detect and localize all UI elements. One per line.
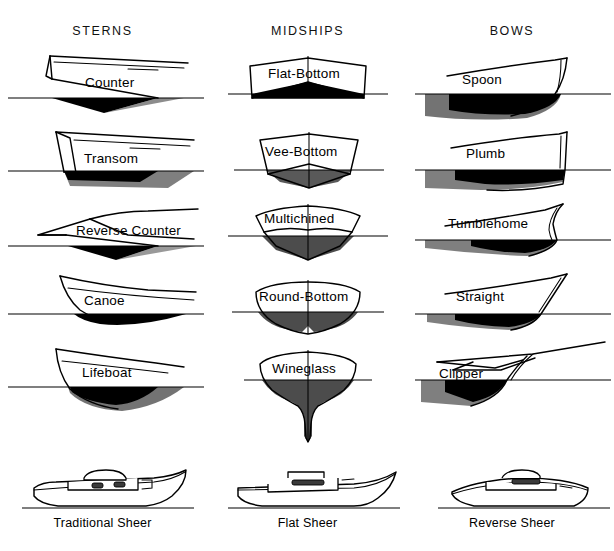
sheer-reverse-drawing bbox=[438, 466, 610, 512]
label-bow-clipper: Clipper bbox=[439, 367, 483, 381]
stern-lifeboat-drawing bbox=[8, 345, 204, 423]
bow-tumblehome-drawing bbox=[415, 200, 611, 262]
midship-vee-bottom-drawing bbox=[234, 130, 384, 192]
bow-clipper-drawing bbox=[415, 340, 611, 422]
bow-spoon-drawing bbox=[415, 54, 611, 124]
label-stern-counter: Counter bbox=[85, 76, 134, 90]
figure-midship-round-bottom bbox=[232, 278, 384, 336]
midship-flat-bottom-drawing bbox=[228, 54, 388, 108]
figure-sheer-flat bbox=[228, 466, 400, 512]
label-bow-tumblehome: Tumblehome bbox=[448, 217, 528, 231]
label-midship-round-bottom: Round-Bottom bbox=[259, 290, 348, 304]
figure-midship-vee-bottom bbox=[234, 130, 384, 192]
sheer-flat-drawing bbox=[228, 466, 400, 512]
label-stern-canoe: Canoe bbox=[84, 294, 125, 308]
label-bow-spoon: Spoon bbox=[462, 73, 502, 87]
label-stern-reverse-counter: Reverse Counter bbox=[76, 224, 181, 238]
figure-bow-tumblehome bbox=[415, 200, 611, 262]
figure-sheer-traditional bbox=[22, 466, 194, 512]
figure-bow-plumb bbox=[415, 128, 611, 198]
label-bow-straight: Straight bbox=[456, 290, 504, 304]
label-midship-vee-bottom: Vee-Bottom bbox=[265, 145, 338, 159]
figure-midship-multichined bbox=[228, 200, 388, 264]
label-stern-lifeboat: Lifeboat bbox=[82, 366, 132, 380]
column-header-sterns: STERNS bbox=[0, 24, 205, 38]
label-midship-wineglass: Wineglass bbox=[272, 362, 336, 376]
figure-bow-spoon bbox=[415, 54, 611, 124]
figure-midship-flat-bottom bbox=[228, 54, 388, 108]
figure-stern-lifeboat bbox=[8, 345, 204, 423]
midship-multichined-drawing bbox=[228, 200, 388, 264]
label-sheer-reverse: Reverse Sheer bbox=[410, 516, 614, 530]
figure-bow-clipper bbox=[415, 340, 611, 422]
hull-shapes-diagram: STERNS MIDSHIPS BOWS Counter bbox=[0, 0, 614, 551]
bow-plumb-drawing bbox=[415, 128, 611, 198]
label-bow-plumb: Plumb bbox=[466, 147, 505, 161]
label-stern-transom: Transom bbox=[84, 152, 138, 166]
column-header-bows: BOWS bbox=[410, 24, 614, 38]
label-sheer-flat: Flat Sheer bbox=[205, 516, 410, 530]
label-sheer-traditional: Traditional Sheer bbox=[0, 516, 205, 530]
bow-straight-drawing bbox=[415, 272, 611, 334]
label-midship-multichined: Multichined bbox=[264, 212, 335, 226]
figure-bow-straight bbox=[415, 272, 611, 334]
figure-sheer-reverse bbox=[438, 466, 610, 512]
label-midship-flat-bottom: Flat-Bottom bbox=[268, 67, 340, 81]
sheer-traditional-drawing bbox=[22, 466, 194, 512]
column-header-midships: MIDSHIPS bbox=[205, 24, 410, 38]
midship-round-bottom-drawing bbox=[232, 278, 384, 336]
